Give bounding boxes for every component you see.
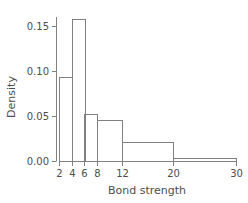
y-tick-label: 0.00 xyxy=(27,156,49,167)
x-tick-label: 6 xyxy=(81,168,87,179)
x-axis-title: Bond strength xyxy=(108,184,186,197)
x-tick-label: 20 xyxy=(167,168,180,179)
histogram-figure: 0.000.050.100.15 Density 2468122030 Bond… xyxy=(0,0,248,203)
y-axis-title: Density xyxy=(5,76,18,118)
y-tick-label: 0.15 xyxy=(27,21,49,32)
x-tick-label: 8 xyxy=(94,168,100,179)
x-tick-label: 30 xyxy=(230,168,243,179)
x-tick-label: 12 xyxy=(116,168,129,179)
x-tick-label: 2 xyxy=(56,168,62,179)
y-tick-label: 0.10 xyxy=(27,66,49,77)
x-tick-label: 4 xyxy=(69,168,75,179)
y-tick-label: 0.05 xyxy=(27,111,49,122)
histogram-plot: 0.000.050.100.15 Density 2468122030 Bond… xyxy=(0,0,248,203)
